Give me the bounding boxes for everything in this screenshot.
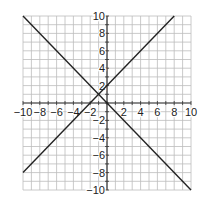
y-tick-label: −10 (86, 184, 105, 196)
x-tick-label: 2 (121, 106, 127, 118)
y-tick-label: 6 (99, 45, 105, 57)
x-tick-label: −6 (50, 106, 63, 118)
y-tick-label: −2 (92, 114, 105, 126)
x-tick-label: −10 (14, 106, 33, 118)
y-tick-label: 2 (99, 80, 105, 92)
x-tick-label: 4 (138, 106, 144, 118)
y-tick-label: 10 (93, 10, 105, 22)
y-tick-label: 4 (99, 62, 105, 74)
x-tick-label: 6 (154, 106, 160, 118)
x-tick-label: −8 (34, 106, 47, 118)
x-tick-label: 8 (171, 106, 177, 118)
coordinate-plane-chart: −10−8−6−4−2246810108642−2−4−6−8−10 (0, 0, 211, 203)
x-tick-label: 10 (185, 106, 197, 118)
y-tick-label: −8 (92, 167, 105, 179)
y-tick-label: −6 (92, 149, 105, 161)
y-tick-label: 8 (99, 27, 105, 39)
y-tick-label: −4 (92, 132, 105, 144)
